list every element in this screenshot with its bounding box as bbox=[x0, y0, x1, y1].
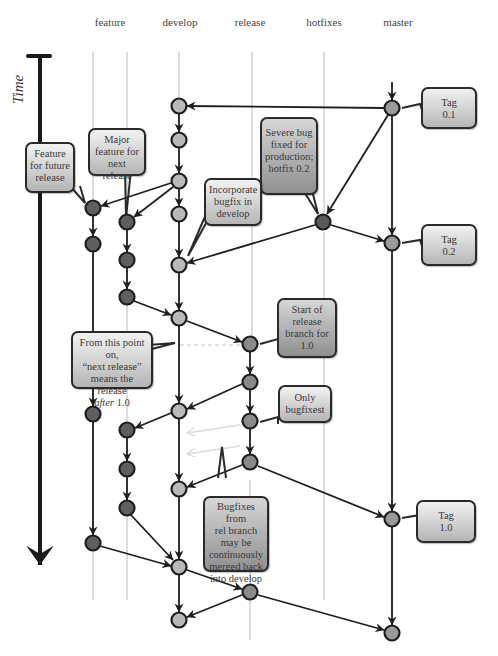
callout-line: merged back bbox=[208, 561, 264, 573]
callout-next-release-meaning: From this point on, “next release” means… bbox=[71, 331, 153, 389]
callout-line: branch for bbox=[282, 328, 332, 340]
commit-feature-major bbox=[120, 423, 135, 438]
callout-line: production; bbox=[265, 151, 313, 163]
callout-line: Start of bbox=[282, 304, 332, 316]
callout-line: Major bbox=[93, 134, 141, 146]
commit-release bbox=[243, 585, 258, 600]
callout-italic-text: after bbox=[94, 397, 114, 408]
commit-hotfix-0-2 bbox=[316, 215, 331, 230]
callout-only-bugfixes: Only bugfixest bbox=[278, 385, 332, 423]
callout-line: feature for bbox=[93, 146, 141, 158]
commit-master-tag-0-2 bbox=[385, 236, 400, 251]
callout-line: next release bbox=[93, 158, 141, 182]
callout-line: after 1.0 bbox=[76, 397, 148, 409]
commit-master-final bbox=[385, 626, 400, 641]
commit-develop bbox=[172, 613, 187, 628]
time-axis bbox=[28, 56, 50, 565]
callout-line: rel branch bbox=[208, 525, 264, 537]
commit-feature-major bbox=[120, 501, 135, 516]
callout-line: 1.0 bbox=[421, 522, 471, 534]
callout-major-feature: Major feature for next release bbox=[88, 128, 146, 176]
commit-feature-major bbox=[120, 462, 135, 477]
commit-feature-future bbox=[86, 201, 101, 216]
callout-line: Tag bbox=[421, 510, 471, 522]
commit-develop bbox=[172, 99, 187, 114]
callout-line: bugfixest bbox=[283, 404, 327, 416]
column-label-master: master bbox=[383, 16, 412, 28]
callout-line: means the release bbox=[76, 373, 148, 397]
commit-develop bbox=[172, 560, 187, 575]
callout-line: bugfix in bbox=[209, 196, 257, 208]
callout-line: release bbox=[30, 172, 70, 184]
callout-line: From this point on, bbox=[76, 337, 148, 361]
callout-line: continuously bbox=[208, 549, 264, 561]
commit-release bbox=[243, 414, 258, 429]
callout-line: Severe bug bbox=[265, 127, 313, 139]
commit-feature-future bbox=[86, 536, 101, 551]
callout-line: release bbox=[282, 316, 332, 328]
commit-release bbox=[243, 455, 258, 470]
callout-line: hotfix 0.2 bbox=[265, 163, 313, 175]
commit-develop bbox=[172, 174, 187, 189]
callout-line: Bugfixes from bbox=[208, 501, 264, 525]
faded-merge-arrows bbox=[187, 425, 240, 454]
callout-tag-0-1: Tag 0.1 bbox=[421, 87, 477, 129]
callout-line: into develop bbox=[208, 573, 264, 585]
callout-line-rest: 1.0 bbox=[114, 397, 130, 408]
callout-line: 1.0 bbox=[282, 340, 332, 352]
callout-line: may be bbox=[208, 537, 264, 549]
column-label-hotfixes: hotfixes bbox=[306, 16, 341, 28]
commit-feature-major bbox=[120, 253, 135, 268]
callout-line: for future bbox=[30, 160, 70, 172]
callout-line: 0.2 bbox=[426, 246, 472, 258]
column-label-develop: develop bbox=[163, 16, 198, 28]
column-label-release: release bbox=[235, 16, 266, 28]
callout-bugfixes-merged-back: Bugfixes from rel branch may be continuo… bbox=[203, 496, 269, 572]
callout-tag-0-2: Tag 0.2 bbox=[421, 224, 477, 266]
column-label-feature: feature bbox=[95, 16, 126, 28]
commit-master-tag-0-1 bbox=[385, 101, 400, 116]
commit-master-tag-1-0 bbox=[385, 512, 400, 527]
callout-line: “next release” bbox=[76, 361, 148, 373]
commit-feature-future bbox=[86, 237, 101, 252]
callout-line: Tag bbox=[426, 234, 472, 246]
callout-line: Feature bbox=[30, 148, 70, 160]
callout-severe-bug-hotfix: Severe bug fixed for production; hotfix … bbox=[260, 117, 318, 195]
callout-start-of-release-branch: Start of release branch for 1.0 bbox=[277, 298, 337, 358]
commit-release bbox=[243, 375, 258, 390]
commit-develop bbox=[172, 207, 187, 222]
callout-line: Incorporate bbox=[209, 184, 257, 196]
callout-line: 0.1 bbox=[426, 109, 472, 121]
commit-develop bbox=[172, 404, 187, 419]
commit-develop bbox=[172, 133, 187, 148]
callout-feature-for-future-release: Feature for future release bbox=[25, 142, 75, 193]
commit-feature-major bbox=[120, 290, 135, 305]
commit-release bbox=[243, 337, 258, 352]
callout-line: Tag bbox=[426, 97, 472, 109]
commit-develop bbox=[172, 258, 187, 273]
commit-develop bbox=[172, 482, 187, 497]
callout-incorporate-bugfix: Incorporate bugfix in develop bbox=[204, 178, 262, 226]
callout-line: Only bbox=[283, 392, 327, 404]
commit-develop bbox=[172, 311, 187, 326]
callout-line: develop bbox=[209, 208, 257, 220]
callout-line: fixed for bbox=[265, 139, 313, 151]
callout-tag-1-0: Tag 1.0 bbox=[416, 500, 476, 543]
time-axis-label: Time bbox=[10, 75, 27, 104]
commit-feature-major bbox=[120, 215, 135, 230]
